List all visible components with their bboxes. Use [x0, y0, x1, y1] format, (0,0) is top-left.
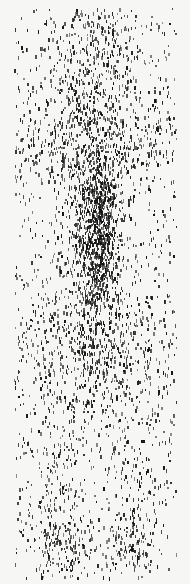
speckle-canvas — [0, 0, 190, 584]
speckle-pattern-image — [0, 0, 190, 584]
